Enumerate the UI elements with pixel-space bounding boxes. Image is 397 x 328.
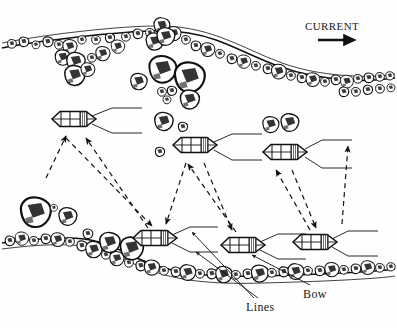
boat-upper-right[interactable] xyxy=(263,144,307,159)
movement-arrow-1 xyxy=(46,136,66,178)
current-label: CURRENT xyxy=(305,20,359,32)
movement-arrow-7 xyxy=(276,170,310,230)
boat-lower-left[interactable] xyxy=(133,230,177,245)
lower-left-boulders xyxy=(21,197,77,227)
boat-lower-mid[interactable] xyxy=(221,237,265,252)
boat-upper-mid[interactable] xyxy=(173,137,217,152)
movement-arrow-6 xyxy=(204,163,232,230)
lines-label: Lines xyxy=(246,300,275,315)
figure-canvas: CURRENT Lines Bow xyxy=(0,0,397,328)
movement-arrow-2 xyxy=(86,138,148,228)
movement-arrow-9 xyxy=(342,146,348,224)
boats xyxy=(52,111,337,252)
bow-label: Bow xyxy=(303,287,327,302)
movement-arrow-4 xyxy=(166,163,186,224)
boat-upper-left[interactable] xyxy=(52,111,96,126)
movement-arrow-3 xyxy=(66,138,152,226)
boat-lower-right[interactable] xyxy=(293,234,337,249)
river-diagram-svg xyxy=(0,0,397,328)
